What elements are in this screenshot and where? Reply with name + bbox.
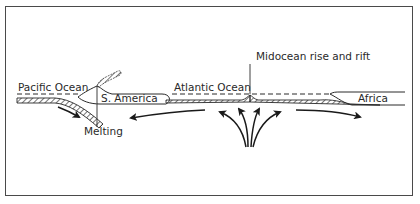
label-south-america: S. America	[101, 92, 158, 104]
westward-flow-arrow	[131, 110, 205, 118]
upwelling-arrow-4	[253, 112, 280, 147]
eastward-flow-arrow	[296, 110, 360, 117]
label-atlantic-ocean: Atlantic Ocean	[174, 81, 251, 93]
volcano-plume	[97, 71, 121, 87]
label-rift: Midocean rise and rift	[256, 50, 370, 62]
atlantic-plate-west	[166, 95, 250, 103]
upwelling-arrow-2	[239, 109, 248, 147]
label-africa: Africa	[358, 92, 388, 104]
tectonics-diagram: Pacific Ocean S. America Atlantic Ocean …	[0, 0, 420, 204]
label-pacific-ocean: Pacific Ocean	[18, 81, 88, 93]
upwelling-arrow-1	[220, 112, 246, 147]
label-melting: Melting	[84, 125, 123, 137]
